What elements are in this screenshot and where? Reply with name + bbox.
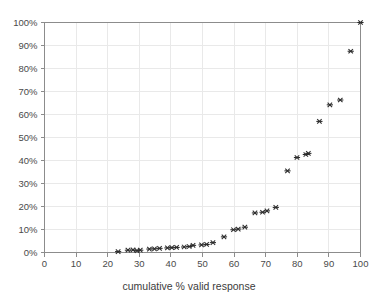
x-tick-label: 100 [353,258,369,269]
data-point-marker [284,169,290,173]
data-point-marker [156,246,162,250]
x-tick-label: 50 [197,258,208,269]
data-point-marker [235,227,241,231]
data-point-marker [337,98,343,102]
data-point-marker [230,227,236,231]
y-tick-label: 100% [13,17,38,28]
data-point-marker [273,205,279,209]
x-axis-title: cumulative % valid response [122,280,255,292]
x-tick-labels: 0102030405060708090100 [42,258,369,269]
data-point-marker [210,240,216,244]
y-tick-label: 20% [18,201,38,212]
y-tick-label: 10% [18,224,38,235]
scatter-chart: 0102030405060708090100 0%10%20%30%40%50%… [0,0,378,303]
x-tick-label: 60 [229,258,240,269]
gridlines [45,23,361,253]
plot-area: 0102030405060708090100 0%10%20%30%40%50%… [0,0,378,303]
x-tick-label: 90 [324,258,335,269]
x-tick-label: 80 [292,258,303,269]
y-tick-label: 40% [18,155,38,166]
tick-marks [41,23,361,257]
data-point-marker [252,211,258,215]
y-tick-label: 80% [18,63,38,74]
data-point-marker [348,49,354,53]
y-tick-label: 60% [18,109,38,120]
data-point-marker [190,243,196,247]
data-point-marker [242,225,248,229]
data-point-marker [173,245,179,249]
y-tick-label: 90% [18,40,38,51]
x-tick-label: 30 [134,258,145,269]
data-point-marker [204,242,210,246]
y-tick-label: 0% [24,247,38,258]
y-tick-label: 30% [18,178,38,189]
y-tick-label: 50% [18,132,38,143]
x-tick-label: 0 [42,258,47,269]
x-tick-label: 40 [166,258,177,269]
data-point-marker [327,103,333,107]
x-tick-label: 10 [71,258,82,269]
x-tick-label: 20 [102,258,113,269]
y-tick-labels: 0%10%20%30%40%50%60%70%80%90%100% [13,17,38,258]
x-tick-label: 70 [260,258,271,269]
data-point-marker [316,119,322,123]
data-point-marker [221,235,227,239]
data-point-marker [137,248,143,252]
y-tick-label: 70% [18,86,38,97]
data-point-marker [115,249,121,253]
data-point-marker [264,209,270,213]
